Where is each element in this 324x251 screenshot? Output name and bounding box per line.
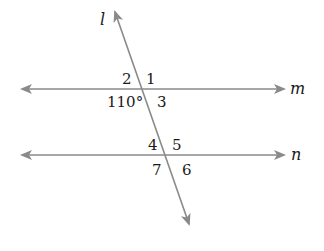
transversal-l xyxy=(115,12,189,224)
angle-5-label: 5 xyxy=(172,136,182,154)
parallel-lines-transversal-diagram: l m n 2 1 110° 3 4 5 7 6 xyxy=(0,0,324,251)
angle-6-label: 6 xyxy=(182,161,192,179)
angle-2-label: 2 xyxy=(122,70,132,88)
label-l: l xyxy=(100,10,105,29)
angle-7-label: 7 xyxy=(152,161,162,179)
label-m: m xyxy=(290,79,305,98)
angle-1-label: 1 xyxy=(146,70,156,88)
angle-3-label: 3 xyxy=(157,93,167,111)
angle-4-label: 4 xyxy=(148,136,158,154)
label-n: n xyxy=(291,145,301,164)
angle-110-label: 110° xyxy=(107,93,143,111)
